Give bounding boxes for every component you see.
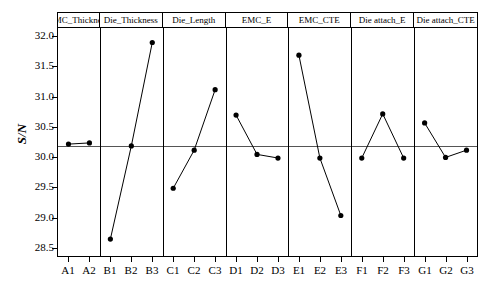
x-axis-tick-mark xyxy=(299,257,300,262)
x-axis-tick-mark xyxy=(404,257,405,262)
x-axis-tick-label: E1 xyxy=(288,264,310,276)
series-line-panel-6 xyxy=(425,123,467,157)
data-point xyxy=(359,155,364,160)
data-point xyxy=(464,148,469,153)
x-axis-tick-label: G3 xyxy=(456,264,478,276)
x-axis-tick-mark xyxy=(152,257,153,262)
x-axis-tick-mark xyxy=(362,257,363,262)
panel-header-label: Die_Thickness xyxy=(104,15,158,25)
panel-header-label: EMC_CTE xyxy=(299,15,340,25)
panel-divider xyxy=(351,28,352,256)
panel-header-0: EMC_Thickness xyxy=(58,13,100,27)
y-axis-tick-label: 30.0 xyxy=(20,151,54,162)
x-axis-tick-mark xyxy=(68,257,69,262)
data-point xyxy=(422,120,427,125)
x-axis-tick-label: B3 xyxy=(141,264,163,276)
x-axis-tick-label: D2 xyxy=(246,264,268,276)
x-axis-tick-label: E3 xyxy=(330,264,352,276)
panel-header-3: EMC_E xyxy=(226,13,289,27)
x-axis-tick-label: A2 xyxy=(78,264,100,276)
data-point xyxy=(171,186,176,191)
data-point xyxy=(380,111,385,116)
data-point xyxy=(66,142,71,147)
panel-divider xyxy=(163,28,164,256)
x-axis-tick-label: C3 xyxy=(204,264,226,276)
x-axis-tick-mark xyxy=(320,257,321,262)
y-axis-tick-mark xyxy=(52,127,57,128)
y-axis-tick-label: 31.5 xyxy=(20,60,54,71)
x-axis-tick-mark xyxy=(110,257,111,262)
data-point xyxy=(296,53,301,58)
data-point xyxy=(233,112,238,117)
x-axis-tick-mark xyxy=(446,257,447,262)
x-axis-tick-label: B1 xyxy=(99,264,121,276)
panel-divider xyxy=(100,28,101,256)
data-point xyxy=(401,155,406,160)
y-axis-tick-mark xyxy=(52,248,57,249)
y-axis-tick-label: 31.0 xyxy=(20,91,54,102)
x-axis-tick-label: F1 xyxy=(351,264,373,276)
x-axis-tick-mark xyxy=(173,257,174,262)
y-axis-tick-mark xyxy=(52,97,57,98)
y-axis-tick-label: 32.0 xyxy=(20,30,54,41)
x-axis-tick-mark xyxy=(383,257,384,262)
panel-divider xyxy=(288,28,289,256)
data-point xyxy=(87,140,92,145)
data-point xyxy=(275,155,280,160)
x-axis-tick-label: D1 xyxy=(225,264,247,276)
plot-area: EMC_ThicknessDie_ThicknessDie_LengthEMC_… xyxy=(57,12,478,257)
data-point xyxy=(443,155,448,160)
panel-header-2: Die_Length xyxy=(163,13,226,27)
panel-divider xyxy=(226,28,227,256)
series-line-panel-5 xyxy=(362,114,404,158)
x-axis-tick-mark xyxy=(194,257,195,262)
panel-header-1: Die_Thickness xyxy=(100,13,163,27)
panel-header-label: EMC_Thickness xyxy=(58,15,100,25)
x-axis-tick-mark xyxy=(131,257,132,262)
series-line-panel-3 xyxy=(236,115,278,158)
x-axis-tick-mark xyxy=(257,257,258,262)
x-axis-tick-label: F3 xyxy=(393,264,415,276)
series-line-panel-2 xyxy=(173,90,215,189)
x-axis-tick-mark xyxy=(425,257,426,262)
data-point xyxy=(108,236,113,241)
y-axis-tick-mark xyxy=(52,36,57,37)
x-axis-line xyxy=(57,256,478,257)
y-axis-tick-label: 30.5 xyxy=(20,121,54,132)
panel-header-5: Die attach_E xyxy=(351,13,414,27)
x-axis-tick-mark xyxy=(467,257,468,262)
x-axis-tick-mark xyxy=(278,257,279,262)
x-axis-tick-label: C2 xyxy=(183,264,205,276)
panel-header-4: EMC_CTE xyxy=(288,13,351,27)
x-axis-tick-mark xyxy=(341,257,342,262)
x-axis-tick-label: E2 xyxy=(309,264,331,276)
y-axis-tick-labels: 32.031.531.030.530.029.529.028.5 xyxy=(18,0,54,286)
x-axis-tick-label: D3 xyxy=(267,264,289,276)
y-axis-tick-label: 28.5 xyxy=(20,242,54,253)
panel-divider xyxy=(414,28,415,256)
y-axis-tick-mark xyxy=(52,218,57,219)
series-line-panel-1 xyxy=(110,43,152,240)
panel-header-label: Die attach_CTE xyxy=(416,15,474,25)
panel-header-label: EMC_E xyxy=(242,15,272,25)
x-axis-tick-label: G2 xyxy=(435,264,457,276)
x-axis-tick-label: B2 xyxy=(120,264,142,276)
main-effects-plot: S/N 32.031.531.030.530.029.529.028.5 EMC… xyxy=(0,0,487,286)
y-axis-tick-label: 29.5 xyxy=(20,181,54,192)
panel-header-label: Die_Length xyxy=(172,15,215,25)
x-axis-tick-mark xyxy=(236,257,237,262)
data-point xyxy=(254,152,259,157)
series-line-panel-4 xyxy=(299,55,341,215)
x-axis-tick-label: C1 xyxy=(162,264,184,276)
x-axis-tick-label: F2 xyxy=(372,264,394,276)
panel-header-label: Die attach_E xyxy=(359,15,406,25)
y-axis-tick-mark xyxy=(52,66,57,67)
data-point xyxy=(129,143,134,148)
x-axis-tick-label: A1 xyxy=(57,264,79,276)
x-axis-tick-mark xyxy=(89,257,90,262)
x-axis-tick-mark xyxy=(215,257,216,262)
data-point xyxy=(150,40,155,45)
y-axis-tick-mark xyxy=(52,187,57,188)
data-point xyxy=(192,148,197,153)
data-point xyxy=(213,87,218,92)
